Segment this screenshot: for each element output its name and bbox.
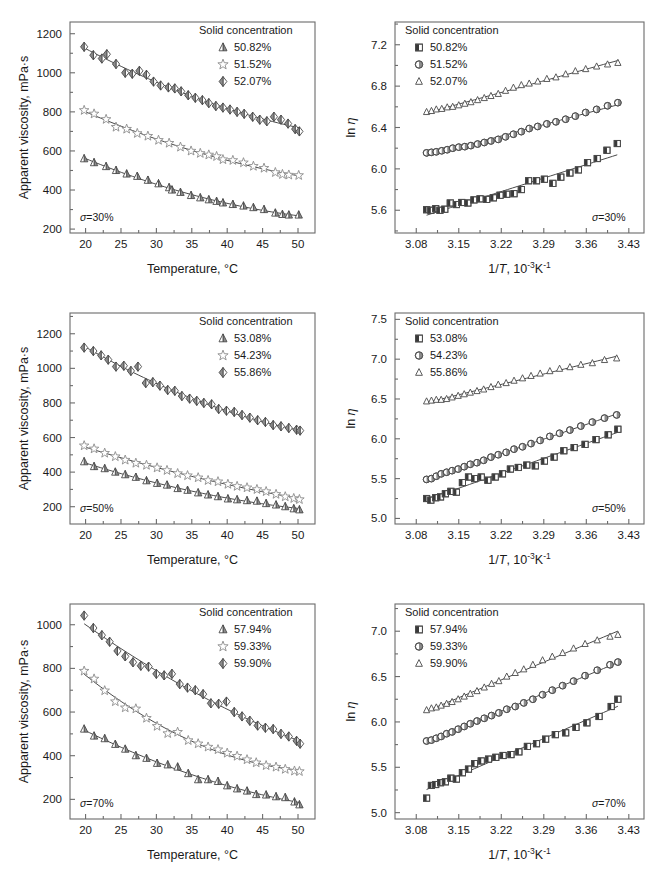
marker-open-triangle xyxy=(416,78,423,85)
marker-half-diamond xyxy=(129,658,136,667)
marker-half-circle xyxy=(615,659,622,666)
marker-half-circle xyxy=(528,440,535,447)
legend-item-label: 59.33% xyxy=(234,640,272,652)
marker-half-circle xyxy=(607,661,614,668)
marker-half-square xyxy=(497,192,503,198)
marker-open-star xyxy=(261,761,271,770)
marker-half-circle xyxy=(467,461,474,468)
x-tick-label: 35 xyxy=(185,238,198,250)
marker-half-square xyxy=(416,44,423,51)
inv-rest: , 10 xyxy=(506,848,527,862)
y-tick-label: 7.5 xyxy=(371,313,387,325)
legend-title: Solid concentration xyxy=(199,24,293,36)
marker-open-star xyxy=(154,135,164,144)
marker-half-triangle xyxy=(143,754,150,761)
marker-half-triangle xyxy=(219,334,227,342)
marker-half-diamond xyxy=(176,679,183,688)
y-tick-label: 400 xyxy=(43,184,62,196)
fit-line xyxy=(84,674,299,770)
marker-open-triangle xyxy=(530,661,536,667)
marker-open-star xyxy=(193,739,203,748)
marker-half-circle xyxy=(481,715,488,722)
marker-half-square xyxy=(604,147,610,153)
x-axis-title: 1/T, 10-3K-1 xyxy=(488,551,551,567)
marker-half-square xyxy=(459,770,465,776)
marker-half-diamond xyxy=(285,423,292,432)
marker-open-triangle xyxy=(570,645,576,651)
marker-half-diamond xyxy=(200,690,207,699)
legend-item-label: 55.86% xyxy=(234,366,272,378)
marker-half-square xyxy=(582,441,588,447)
x-tick-label: 3.36 xyxy=(575,529,597,541)
marker-half-square xyxy=(594,155,600,161)
marker-half-circle xyxy=(539,691,546,698)
marker-half-circle xyxy=(519,443,526,450)
marker-half-circle xyxy=(526,125,533,132)
legend: Solid concentration53.08%54.23%55.86% xyxy=(405,315,499,378)
marker-half-square xyxy=(567,170,573,176)
marker-half-circle xyxy=(582,672,589,679)
marker-half-square xyxy=(550,180,556,186)
marker-open-triangle xyxy=(572,68,578,74)
x-tick-label: 20 xyxy=(79,238,92,250)
x-tick-label: 3.43 xyxy=(618,824,640,836)
x-tick-label: 3.15 xyxy=(448,824,470,836)
marker-half-square xyxy=(552,732,558,738)
marker-half-square xyxy=(484,196,490,202)
marker-half-square xyxy=(575,167,581,173)
y-tick-label: 800 xyxy=(43,106,62,118)
marker-half-triangle xyxy=(295,211,302,218)
marker-half-square xyxy=(508,751,514,757)
marker-half-diamond xyxy=(246,716,253,725)
marker-half-diamond xyxy=(219,103,226,112)
legend-title: Solid concentration xyxy=(405,606,499,618)
y-tick-label: 6.0 xyxy=(371,433,387,445)
marker-half-diamond xyxy=(270,112,277,121)
x-tick-label: 45 xyxy=(256,824,269,836)
marker-half-square xyxy=(551,454,557,460)
marker-half-square xyxy=(477,196,483,202)
marker-half-square xyxy=(493,754,499,760)
marker-half-circle xyxy=(468,142,475,149)
marker-half-square xyxy=(465,474,471,480)
chart-panel-top-left: 2025303540455020040060080010001200Solid … xyxy=(0,0,333,291)
marker-half-circle xyxy=(488,138,495,145)
sigma-value: =70% xyxy=(86,797,113,809)
marker-half-triangle xyxy=(233,785,240,792)
marker-open-star xyxy=(271,762,281,771)
marker-half-triangle xyxy=(134,172,141,179)
y-tick-label: 6.5 xyxy=(371,671,387,683)
marker-half-triangle xyxy=(243,496,250,503)
inv-rest: , 10 xyxy=(506,262,527,276)
marker-open-star xyxy=(89,444,99,453)
marker-half-triangle xyxy=(219,43,227,51)
marker-open-triangle xyxy=(549,653,555,659)
marker-half-circle xyxy=(601,415,608,422)
marker-half-square xyxy=(524,743,530,749)
marker-half-square xyxy=(492,474,498,480)
marker-half-diamond xyxy=(157,81,164,90)
y-tick-label: 6.5 xyxy=(371,393,387,405)
marker-half-circle xyxy=(572,113,579,120)
marker-open-star xyxy=(173,469,183,478)
marker-half-square xyxy=(515,464,521,470)
marker-half-circle xyxy=(562,116,569,123)
marker-half-square xyxy=(465,200,471,206)
marker-half-diamond xyxy=(98,351,105,360)
marker-half-diamond xyxy=(127,366,134,375)
marker-half-diamond xyxy=(270,724,277,733)
marker-open-star xyxy=(251,758,261,767)
marker-half-square xyxy=(615,426,621,432)
marker-half-diamond xyxy=(285,732,292,741)
marker-half-square xyxy=(526,178,532,184)
y-tick-label: 1000 xyxy=(36,619,62,631)
marker-half-circle xyxy=(582,109,589,116)
x-tick-label: 35 xyxy=(185,824,198,836)
exp-minus1: -1 xyxy=(543,551,551,561)
y-tick-label: 7.0 xyxy=(371,353,387,365)
marker-open-star xyxy=(213,477,223,486)
marker-half-diamond xyxy=(90,346,97,355)
marker-half-triangle xyxy=(90,732,97,739)
marker-open-triangle xyxy=(496,678,502,684)
y-axis-title: Apparent viscosity, mPa·s xyxy=(17,347,31,491)
